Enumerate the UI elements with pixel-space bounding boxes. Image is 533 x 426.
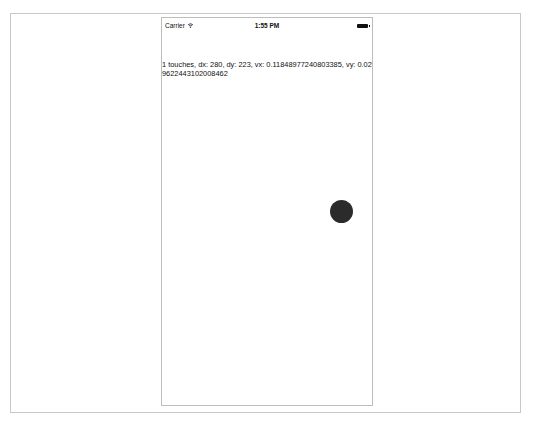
- touch-indicator-circle[interactable]: [330, 200, 353, 223]
- touch-info-text: 1 touches, dx: 280, dy: 223, vx: 0.11848…: [162, 60, 373, 78]
- status-time: 1:55 PM: [162, 22, 372, 29]
- status-bar: Carrier 1:55 PM: [162, 18, 372, 34]
- phone-screen[interactable]: Carrier 1:55 PM 1 touches, dx: 280, dy: …: [161, 17, 373, 406]
- battery-icon: [357, 24, 368, 28]
